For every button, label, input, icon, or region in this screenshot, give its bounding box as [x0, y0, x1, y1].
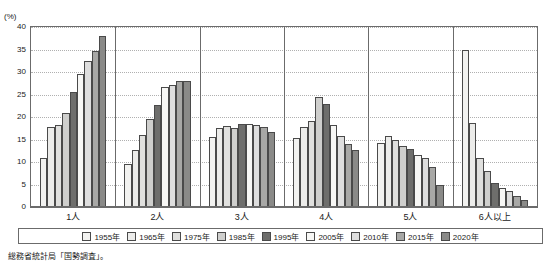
bar — [161, 87, 168, 207]
legend-item: 1995年 — [262, 231, 300, 242]
bar — [491, 183, 498, 207]
legend-swatch — [217, 232, 226, 241]
y-axis-tick: 0 — [22, 203, 26, 211]
legend-label: 1985年 — [229, 231, 255, 242]
legend-label: 1975年 — [184, 231, 210, 242]
legend-swatch — [82, 232, 91, 241]
y-axis-tick: 20 — [17, 113, 26, 121]
bar — [62, 113, 69, 207]
bar — [47, 127, 54, 207]
legend-swatch — [441, 232, 450, 241]
y-axis-unit: (%) — [4, 12, 16, 21]
x-axis-label: 2人 — [150, 210, 164, 223]
bar-group — [115, 27, 199, 207]
legend-item: 1955年 — [82, 231, 120, 242]
bar — [77, 74, 84, 207]
bar — [70, 92, 77, 207]
legend-swatch — [351, 232, 360, 241]
bar — [352, 150, 359, 207]
bar-group — [31, 27, 115, 207]
group-separator — [284, 27, 285, 207]
y-axis-tick: 10 — [17, 158, 26, 166]
bar — [476, 158, 483, 208]
legend: 1955年1965年1975年1985年1995年2005年2010年2015年… — [18, 228, 543, 244]
bar-group — [453, 27, 537, 207]
bar — [506, 191, 513, 207]
legend-label: 2020年 — [453, 231, 479, 242]
legend-item: 2015年 — [396, 231, 434, 242]
y-axis-tick: 30 — [17, 68, 26, 76]
bar-group — [200, 27, 284, 207]
bar — [154, 105, 161, 207]
legend-swatch — [127, 232, 136, 241]
bar — [124, 164, 131, 207]
x-axis-label: 1人 — [66, 210, 80, 223]
bar — [337, 136, 344, 207]
bar — [499, 188, 506, 207]
legend-item: 2005年 — [306, 231, 344, 242]
legend-item: 1985年 — [217, 231, 255, 242]
bar — [84, 61, 91, 207]
x-axis-label: 4人 — [319, 210, 333, 223]
bar — [92, 51, 99, 207]
legend-item: 2020年 — [441, 231, 479, 242]
bar — [345, 144, 352, 207]
y-axis-tick: 35 — [17, 46, 26, 54]
legend-label: 1965年 — [139, 231, 165, 242]
legend-label: 1955年 — [94, 231, 120, 242]
bar — [176, 81, 183, 207]
bar — [231, 128, 238, 207]
bar — [300, 127, 307, 207]
bar — [377, 143, 384, 207]
group-separator — [200, 27, 201, 207]
bar — [223, 126, 230, 207]
legend-swatch — [262, 232, 271, 241]
x-axis-label: 6人以上 — [479, 210, 511, 223]
bar — [132, 150, 139, 207]
chart-figure: 0510152025303540 (%) 1人2人3人4人5人6人以上 1955… — [0, 0, 557, 270]
bar — [139, 135, 146, 207]
plot-area — [30, 26, 538, 208]
legend-label: 2010年 — [363, 231, 389, 242]
source-note: 総務省統計局「国勢調査」。 — [8, 250, 108, 261]
bar — [392, 140, 399, 207]
x-axis-label: 5人 — [403, 210, 417, 223]
bar-set — [124, 27, 190, 207]
bar — [484, 171, 491, 207]
bar — [268, 132, 275, 207]
bar — [99, 36, 106, 207]
y-axis: 0510152025303540 — [0, 26, 30, 208]
bar — [429, 167, 436, 207]
bar-group — [284, 27, 368, 207]
x-axis-label: 3人 — [235, 210, 249, 223]
y-axis-tick: 5 — [22, 181, 26, 189]
bar — [462, 50, 469, 207]
legend-item: 1965年 — [127, 231, 165, 242]
axis-baseline — [31, 206, 537, 207]
bar — [40, 158, 47, 207]
y-axis-tick: 15 — [17, 136, 26, 144]
y-axis-tick: 25 — [17, 91, 26, 99]
bar-set — [209, 27, 275, 207]
legend-label: 2015年 — [408, 231, 434, 242]
bar — [183, 81, 190, 207]
bar — [253, 125, 260, 207]
bar — [323, 104, 330, 208]
x-axis-labels: 1人2人3人4人5人6人以上 — [30, 210, 538, 224]
bar — [399, 146, 406, 207]
legend-label: 2005年 — [318, 231, 344, 242]
y-axis-tick: 40 — [17, 23, 26, 31]
bar-set — [377, 27, 443, 207]
bar — [315, 97, 322, 207]
bar — [422, 158, 429, 207]
bar — [146, 119, 153, 207]
group-separator — [368, 27, 369, 207]
bar — [209, 137, 216, 207]
bar-set — [462, 27, 528, 207]
bar — [293, 138, 300, 207]
bar — [216, 128, 223, 207]
group-separator — [115, 27, 116, 207]
bar-set — [40, 27, 106, 207]
bar — [55, 125, 62, 207]
bar — [330, 125, 337, 207]
